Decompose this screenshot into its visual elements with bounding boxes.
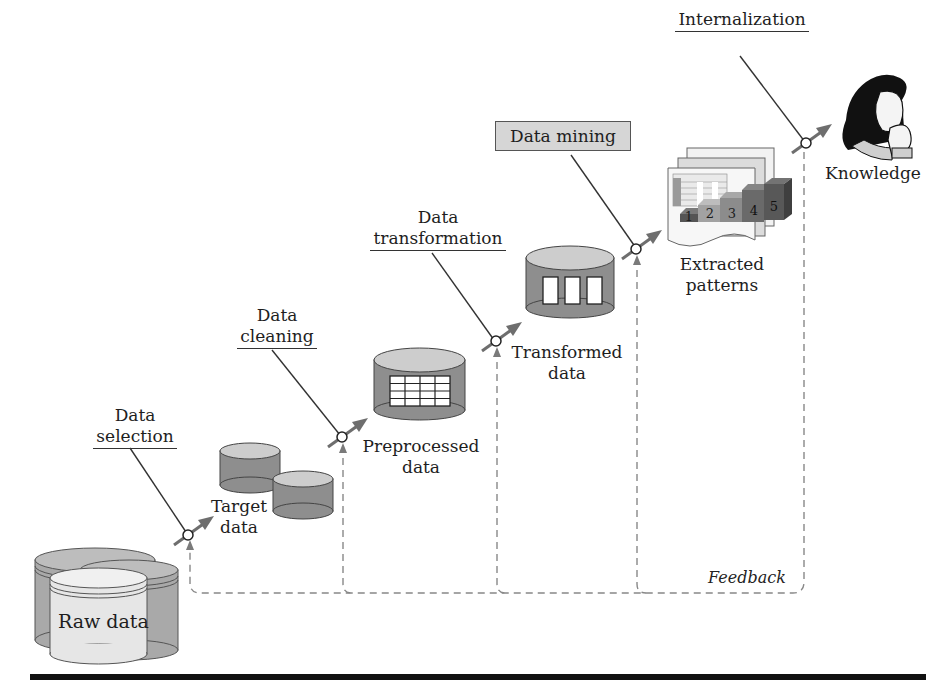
stage-knowledge-label: Knowledge (818, 163, 928, 184)
kdd-diagram-canvas (0, 0, 944, 692)
bar-label-2: 2 (705, 203, 715, 224)
stage-line2: data (356, 457, 486, 478)
step-label: Internalization (675, 9, 808, 32)
step-line1: Data (237, 305, 317, 326)
step-data-transformation: Data transformation (363, 207, 513, 251)
step-data-mining: Data mining (495, 121, 631, 151)
raw-data-cylinders-icon (35, 548, 178, 664)
bar-label-1: 1 (684, 206, 694, 227)
stage-line2: data (204, 517, 274, 538)
preprocessed-data-cylinder-icon (374, 348, 465, 420)
step-data-selection: Data selection (90, 405, 180, 449)
step-line1: Data (363, 207, 513, 228)
step-internalization: Internalization (672, 9, 812, 32)
step-line2: transformation (370, 228, 505, 251)
thinking-person-icon (842, 75, 912, 160)
stage-raw-data-label: Raw data (58, 610, 149, 632)
stage-line1: Transformed (507, 342, 627, 363)
step-line2: selection (93, 426, 176, 449)
stage-extracted-patterns-label: Extracted patterns (672, 254, 772, 296)
stage-transformed-data-label: Transformed data (507, 342, 627, 384)
stage-preprocessed-data-label: Preprocessed data (356, 436, 486, 478)
stage-line1: Target (204, 496, 274, 517)
flow-arrow-icon (622, 230, 662, 259)
bar-label-5: 5 (769, 196, 779, 217)
stage-line2: patterns (672, 275, 772, 296)
flow-arrow-icon (792, 124, 832, 153)
stage-target-data-label: Target data (204, 496, 274, 538)
step-line2: cleaning (237, 326, 316, 349)
stage-line2: data (507, 363, 627, 384)
table-grid-icon (390, 376, 450, 406)
bottom-rule-divider (30, 674, 926, 680)
bar-label-4: 4 (749, 200, 759, 221)
bar-label-3: 3 (727, 203, 737, 224)
stage-line1: Extracted (672, 254, 772, 275)
transformed-data-cylinder-icon (526, 246, 614, 318)
feedback-label: Feedback (708, 568, 786, 587)
step-line1: Data (90, 405, 180, 426)
stage-line1: Preprocessed (356, 436, 486, 457)
step-data-cleaning: Data cleaning (237, 305, 317, 349)
